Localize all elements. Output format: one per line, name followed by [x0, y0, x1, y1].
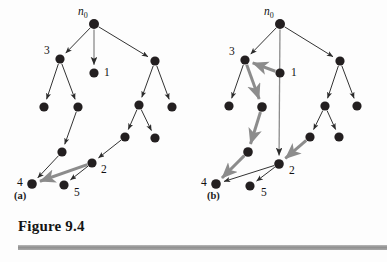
graph-edge	[98, 140, 121, 158]
graph-edge	[342, 66, 354, 99]
graph-node	[211, 179, 221, 189]
graph-edge	[251, 28, 277, 54]
graph-edge	[232, 65, 244, 99]
graph-edge	[62, 64, 75, 100]
graph-panel-a: n031245	[0, 0, 193, 210]
graph-node	[334, 132, 343, 141]
graph-edge	[327, 111, 336, 130]
graph-edge	[47, 64, 59, 99]
graph-node	[57, 147, 66, 156]
node-text-label: 4	[17, 176, 23, 188]
panel-label-b: (b)	[207, 190, 220, 201]
graph-edge	[222, 156, 244, 178]
node-text-label: 2	[101, 163, 107, 175]
node-text-label: 3	[229, 45, 235, 57]
node-text-subscript: 0	[270, 11, 274, 20]
node-text-label: 2	[289, 164, 295, 176]
graph-edge	[328, 66, 339, 98]
graph-edge	[128, 110, 137, 130]
graph-node	[167, 102, 176, 111]
figure-rule-divider	[18, 245, 387, 250]
graph-edge	[250, 112, 260, 144]
labels-layer-b: n031245	[201, 5, 297, 198]
graph-edge	[279, 29, 280, 155]
graph-node	[243, 147, 253, 157]
graph-node	[120, 132, 129, 141]
graph-edge	[141, 109, 151, 130]
graph-node	[89, 68, 98, 77]
edges-layer-a	[38, 27, 169, 181]
graph-node	[59, 180, 68, 189]
graph-edge	[247, 65, 259, 99]
panel-label-a: (a)	[14, 190, 26, 201]
graph-node	[305, 132, 314, 141]
graph-edge	[99, 27, 148, 57]
graph-node	[150, 56, 159, 65]
graph-node	[240, 55, 249, 64]
figure-title: Figure 9.4	[18, 218, 85, 235]
graph-node	[134, 100, 143, 109]
graph-edge	[157, 66, 169, 100]
graph-node	[275, 19, 285, 29]
edges-layer-b	[222, 27, 354, 182]
graph-node	[55, 54, 64, 63]
graph-node	[274, 159, 284, 169]
graph-node	[257, 102, 267, 112]
graph-edge	[40, 165, 87, 182]
graph-edge	[257, 167, 275, 181]
graph-node	[245, 181, 254, 190]
graph-node	[39, 102, 48, 111]
node-text-label: n0	[264, 5, 274, 20]
labels-layer-a: n031245	[17, 5, 110, 198]
graph-node	[275, 68, 284, 77]
figure-panels: n031245 n031245 (a) (b)	[0, 0, 387, 210]
graph-node	[335, 56, 344, 65]
graph-edge	[66, 28, 91, 53]
graph-edge	[142, 66, 153, 98]
node-text-label: 3	[44, 44, 50, 56]
graph-panel-b: n031245	[193, 0, 387, 210]
node-text-label: 5	[261, 186, 267, 198]
figure-9-4: n031245 n031245 (a) (b) Figure 9.4	[0, 0, 387, 262]
node-text-label: 4	[201, 176, 207, 188]
node-text-subscript: 0	[84, 11, 88, 20]
graph-edge	[285, 140, 306, 158]
node-text-label: 5	[74, 186, 80, 198]
graph-node	[320, 101, 329, 110]
graph-edge	[285, 27, 333, 57]
graph-edge	[253, 63, 276, 71]
graph-edge	[314, 111, 323, 130]
graph-node	[224, 101, 233, 110]
graph-node	[89, 19, 99, 29]
graph-node	[27, 179, 37, 189]
graph-node	[87, 158, 96, 167]
node-text-label: 1	[104, 66, 110, 78]
node-text-label: 1	[291, 66, 297, 78]
graph-node	[352, 101, 361, 110]
graph-node	[73, 102, 82, 111]
node-text-label: n0	[78, 5, 88, 20]
graph-edge	[65, 112, 77, 145]
graph-node	[150, 133, 159, 142]
